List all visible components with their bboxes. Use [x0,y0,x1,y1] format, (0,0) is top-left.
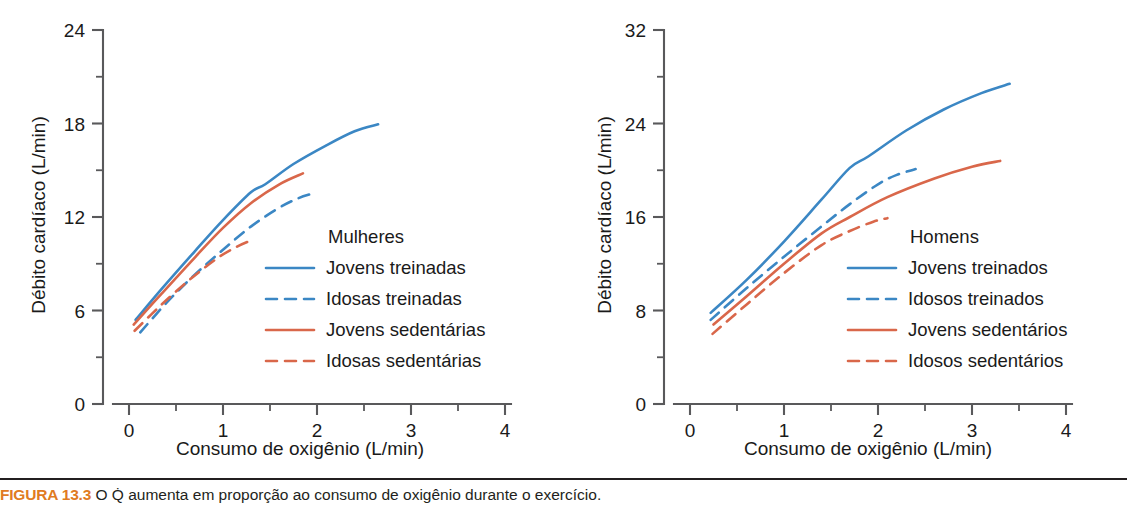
tick-labels-left: 0612182401234 [64,20,511,441]
y-axis-title-left: Débito cardíaco (L/min) [28,116,49,313]
series-line-right-1 [711,169,916,320]
x-tick-label-left: 0 [124,420,135,441]
series-line-left-1 [140,194,312,333]
y-tick-label-left: 24 [64,20,86,41]
legend-title-left: Mulheres [328,226,404,247]
y-tick-label-right: 0 [635,394,646,415]
chart-panel-homens: 0816243201234 HomensJovens treinadosIdos… [563,0,1126,470]
series-line-right-3 [713,218,888,334]
caption-text: O Q̇ aumenta em proporção ao consumo de … [91,486,601,503]
x-axis-title-left: Consumo de oxigênio (L/min) [176,438,424,459]
x-tick-label-right: 0 [685,420,696,441]
series-line-left-2 [134,173,303,324]
legend-label-right-0: Jovens treinados [908,257,1048,278]
caption-divider [0,478,1127,480]
y-tick-label-left: 6 [74,301,85,322]
chart-panel-mulheres: 0612182401234 MulheresJovens treinadasId… [0,0,563,470]
y-tick-label-right: 8 [635,301,646,322]
legend-left: MulheresJovens treinadasIdosas treinadas… [266,226,485,371]
caption-number: FIGURA 13.3 [0,486,91,503]
legend-label-left-3: Idosas sedentárias [326,350,481,371]
chart-svg-left: 0612182401234 MulheresJovens treinadasId… [0,0,563,470]
y-tick-label-right: 16 [625,207,646,228]
legend-label-left-1: Idosas treinadas [326,288,462,309]
legend-label-left-2: Jovens sedentárias [326,319,485,340]
y-tick-label-right: 24 [625,114,647,135]
figure-container: 0612182401234 MulheresJovens treinadasId… [0,0,1127,506]
legend-title-right: Homens [910,226,979,247]
y-tick-label-left: 12 [64,207,85,228]
legend-label-right-2: Jovens sedentários [908,319,1067,340]
legend-label-right-3: Idosos sedentários [908,350,1063,371]
figure-caption: FIGURA 13.3 O Q̇ aumenta em proporção ao… [0,486,1127,506]
x-axis-title-right: Consumo de oxigênio (L/min) [744,438,992,459]
series-line-right-0 [711,84,1010,313]
y-tick-label-left: 0 [74,394,85,415]
x-tick-label-left: 4 [500,420,511,441]
y-axis-title-right: Débito cardíaco (L/min) [594,116,615,313]
legend-right: HomensJovens treinadosIdosos treinadosJo… [848,226,1067,371]
chart-svg-right: 0816243201234 HomensJovens treinadosIdos… [563,0,1127,470]
legend-label-left-0: Jovens treinadas [326,257,466,278]
y-tick-label-left: 18 [64,114,85,135]
x-tick-label-right: 4 [1061,420,1072,441]
y-tick-label-right: 32 [625,20,646,41]
legend-label-right-1: Idosos treinados [908,288,1044,309]
